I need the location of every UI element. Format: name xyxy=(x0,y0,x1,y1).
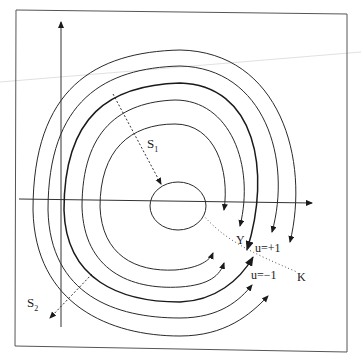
label-s2: S2 xyxy=(27,295,38,313)
label-y: Y xyxy=(236,233,245,247)
trajectory-lower-4 xyxy=(48,210,252,318)
label-u-minus: u=−1 xyxy=(251,268,277,282)
horizontal-axis xyxy=(19,199,312,203)
figure-frame xyxy=(15,10,347,352)
trajectory-upper-5 xyxy=(33,50,296,242)
trajectory-upper-2 xyxy=(82,100,244,226)
label-k: K xyxy=(297,270,306,284)
trajectory-upper-1 xyxy=(100,124,225,210)
label-u-plus: u=+1 xyxy=(255,241,281,255)
trajectories-lower xyxy=(33,207,268,336)
label-s1: S1 xyxy=(147,136,158,154)
target-set-ellipse xyxy=(150,182,206,230)
trajectory-lower-1 xyxy=(100,207,213,270)
phase-plane-diagram: S1 S2 Y u=+1 u=−1 K xyxy=(0,0,361,359)
trajectories-upper xyxy=(33,50,296,250)
trajectory-lower-5 xyxy=(33,210,268,336)
trajectory-lower-2 xyxy=(82,207,224,287)
switching-curve-k xyxy=(203,215,297,272)
scan-artifact xyxy=(0,52,361,82)
